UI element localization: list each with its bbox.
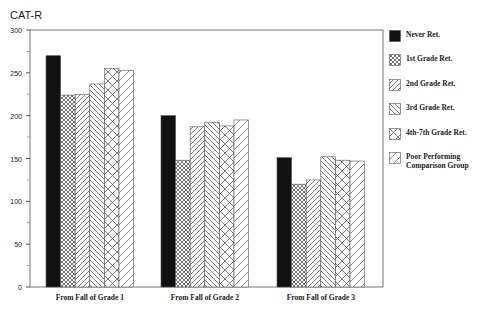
legend-item: 1st Grade Ret.	[389, 54, 452, 66]
bar	[219, 126, 234, 287]
bar	[292, 184, 307, 287]
x-category-label: From Fall of Grade 1	[56, 293, 124, 302]
legend-swatch-icon	[389, 54, 401, 66]
x-category-label: From Fall of Grade 3	[287, 293, 355, 302]
legend-swatch-icon	[389, 79, 401, 91]
bar	[350, 161, 365, 287]
y-tick-label: 200	[10, 113, 22, 120]
y-tick-label: 300	[10, 27, 22, 34]
bar	[104, 69, 119, 287]
bar	[306, 180, 321, 287]
x-category-label: From Fall of Grade 2	[171, 293, 239, 302]
bar	[321, 157, 336, 287]
legend-swatch-icon	[389, 30, 401, 42]
y-tick-label: 100	[10, 198, 22, 205]
y-tick-label: 0	[18, 284, 22, 291]
bar	[119, 70, 134, 287]
legend-item: 3rd Grade Ret.	[389, 103, 455, 115]
legend-item: Never Ret.	[389, 30, 440, 42]
bar	[190, 127, 205, 287]
bar	[205, 123, 220, 287]
bar	[75, 94, 90, 287]
legend-item: 4th-7th Grade Ret.	[389, 128, 467, 140]
legend-label: Never Ret.	[406, 30, 440, 39]
bar	[46, 56, 61, 287]
legend-item: Poor PerformingComparison Group	[389, 152, 469, 170]
bar	[176, 160, 191, 287]
legend-item: 2nd Grade Ret.	[389, 79, 455, 91]
legend-label: 2nd Grade Ret.	[406, 79, 455, 88]
legend-label: 4th-7th Grade Ret.	[406, 128, 467, 137]
legend-label: 3rd Grade Ret.	[406, 103, 455, 112]
y-tick-label: 150	[10, 156, 22, 163]
legend-label: Poor PerformingComparison Group	[406, 152, 469, 170]
bar	[161, 116, 176, 287]
legend-swatch-icon	[389, 152, 401, 164]
bar	[234, 120, 249, 287]
legend-label: 1st Grade Ret.	[406, 54, 452, 63]
bar	[277, 158, 292, 287]
y-tick-label: 250	[10, 70, 22, 77]
legend-swatch-icon	[389, 103, 401, 115]
bar	[335, 160, 350, 287]
bar	[90, 84, 105, 287]
legend-swatch-icon	[389, 128, 401, 140]
bar	[61, 95, 76, 287]
y-tick-label: 50	[14, 241, 22, 248]
